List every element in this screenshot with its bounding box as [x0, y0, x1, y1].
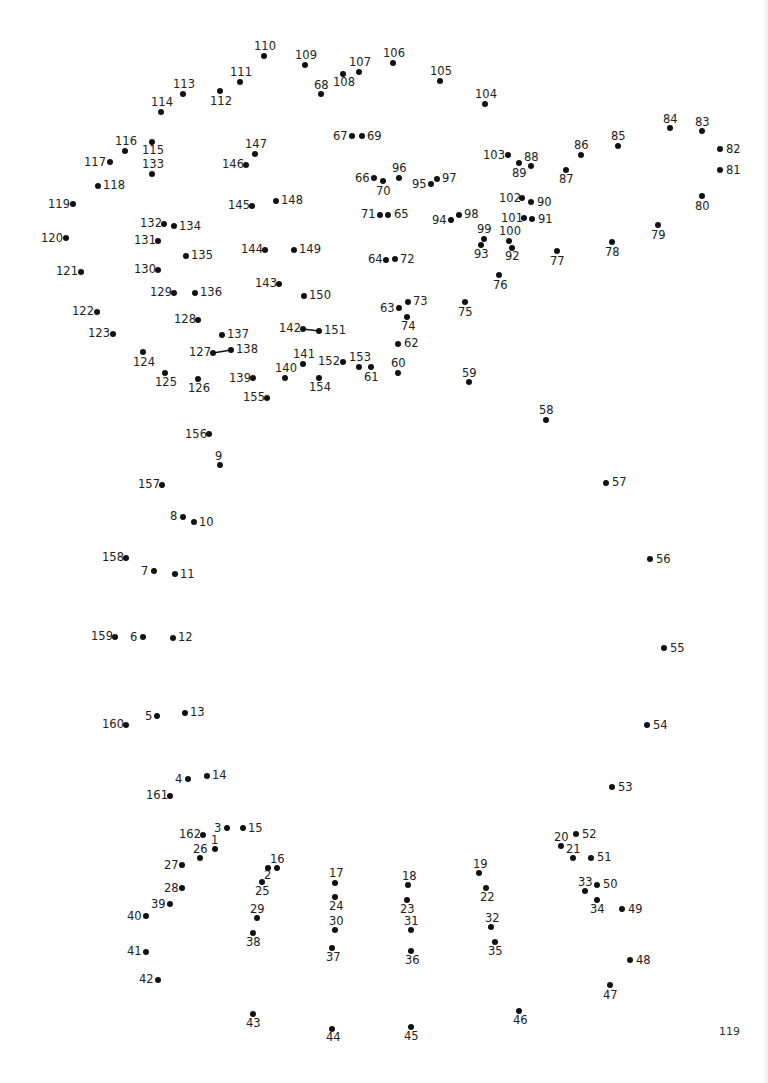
dot-label-61: 61 — [364, 372, 379, 384]
dot-label-161: 161 — [146, 790, 168, 802]
dot-150 — [301, 293, 307, 299]
dot-66 — [371, 175, 377, 181]
dot-90 — [528, 199, 534, 205]
dot-label-127: 127 — [189, 347, 211, 359]
dot-49 — [619, 906, 625, 912]
dot-label-144: 144 — [241, 244, 263, 256]
dot-41 — [143, 949, 149, 955]
dot-54 — [644, 722, 650, 728]
dot-57 — [603, 480, 609, 486]
dot-27 — [179, 862, 185, 868]
dot-73 — [405, 299, 411, 305]
dot-label-33: 33 — [578, 877, 593, 889]
dot-label-137: 137 — [227, 329, 249, 341]
dot-label-139: 139 — [229, 373, 251, 385]
dot-153 — [356, 364, 362, 370]
dot-label-70: 70 — [376, 186, 391, 198]
dot-label-7: 7 — [141, 566, 148, 578]
dot-label-10: 10 — [199, 517, 214, 529]
dot-label-44: 44 — [326, 1032, 341, 1044]
dot-81 — [717, 167, 723, 173]
dot-label-57: 57 — [612, 477, 627, 489]
dot-label-140: 140 — [275, 363, 297, 375]
dot-label-69: 69 — [367, 131, 382, 143]
dot-label-85: 85 — [611, 131, 626, 143]
dot-100 — [506, 238, 512, 244]
dot-label-41: 41 — [127, 946, 142, 958]
dot-72 — [392, 256, 398, 262]
dot-40 — [143, 913, 149, 919]
dot-label-52: 52 — [582, 829, 597, 841]
dot-label-134: 134 — [179, 221, 201, 233]
connector-lines — [0, 0, 768, 1083]
dot-label-29: 29 — [250, 904, 265, 916]
dot-label-103: 103 — [483, 150, 505, 162]
dot-label-5: 5 — [145, 711, 152, 723]
dot-label-153: 153 — [349, 352, 371, 364]
dot-label-3: 3 — [214, 823, 221, 835]
dot-117 — [107, 159, 113, 165]
dot-label-133: 133 — [142, 159, 164, 171]
puzzle-page: 1234567891011121314151617181920212223242… — [0, 0, 768, 1083]
dot-label-31: 31 — [404, 916, 419, 928]
dot-10 — [191, 519, 197, 525]
dot-label-72: 72 — [400, 254, 415, 266]
dot-label-142: 142 — [279, 323, 301, 335]
dot-106 — [390, 60, 396, 66]
dot-label-21: 21 — [566, 844, 581, 856]
dot-label-98: 98 — [464, 209, 479, 221]
dot-label-14: 14 — [212, 770, 227, 782]
dot-67 — [349, 133, 355, 139]
dot-label-147: 147 — [245, 139, 267, 151]
dot-label-113: 113 — [173, 79, 195, 91]
dot-51 — [588, 855, 594, 861]
page-edge-shadow — [762, 0, 768, 1083]
dot-label-108: 108 — [333, 77, 355, 89]
dot-69 — [359, 133, 365, 139]
dot-label-13: 13 — [190, 707, 205, 719]
dot-138 — [228, 347, 234, 353]
dot-96 — [396, 175, 402, 181]
dot-label-68: 68 — [314, 80, 329, 92]
dot-label-45: 45 — [404, 1031, 419, 1043]
dot-135 — [183, 253, 189, 259]
dot-5 — [154, 713, 160, 719]
dot-label-22: 22 — [480, 892, 495, 904]
dot-label-155: 155 — [243, 392, 265, 404]
dot-label-105: 105 — [430, 66, 452, 78]
dot-label-63: 63 — [380, 303, 395, 315]
dot-60 — [395, 370, 401, 376]
dot-121 — [78, 269, 84, 275]
dot-label-65: 65 — [394, 209, 409, 221]
dot-label-73: 73 — [413, 296, 428, 308]
dot-86 — [578, 152, 584, 158]
page-number: 119 — [719, 1025, 740, 1038]
dot-62 — [395, 341, 401, 347]
dot-label-37: 37 — [326, 952, 341, 964]
dot-label-114: 114 — [151, 97, 173, 109]
dot-label-117: 117 — [84, 157, 106, 169]
dot-99 — [481, 236, 487, 242]
dot-3 — [224, 825, 230, 831]
dot-label-146: 146 — [222, 159, 244, 171]
dot-label-138: 138 — [236, 344, 258, 356]
dot-120 — [63, 235, 69, 241]
dot-label-136: 136 — [200, 287, 222, 299]
dot-label-110: 110 — [254, 41, 276, 53]
dot-label-96: 96 — [392, 163, 407, 175]
dot-14 — [204, 773, 210, 779]
dot-28 — [179, 885, 185, 891]
dot-label-12: 12 — [178, 632, 193, 644]
dot-65 — [385, 212, 391, 218]
dot-137 — [219, 332, 225, 338]
dot-label-152: 152 — [318, 356, 340, 368]
dot-label-109: 109 — [295, 50, 317, 62]
dot-label-58: 58 — [539, 405, 554, 417]
dot-label-118: 118 — [103, 180, 125, 192]
dot-107 — [356, 69, 362, 75]
dot-label-64: 64 — [368, 254, 383, 266]
dot-113 — [180, 91, 186, 97]
dot-label-87: 87 — [559, 174, 574, 186]
dot-13 — [182, 710, 188, 716]
dot-8 — [180, 514, 186, 520]
